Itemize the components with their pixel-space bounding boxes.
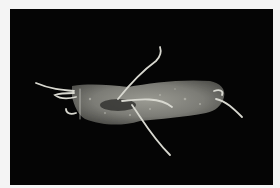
specimen-body bbox=[72, 80, 224, 124]
specimen-illustration bbox=[10, 9, 273, 185]
tendril-left-3 bbox=[66, 109, 76, 114]
tendril-left-1 bbox=[36, 83, 74, 91]
photo-frame bbox=[0, 0, 280, 188]
specimen-photo bbox=[10, 9, 273, 185]
